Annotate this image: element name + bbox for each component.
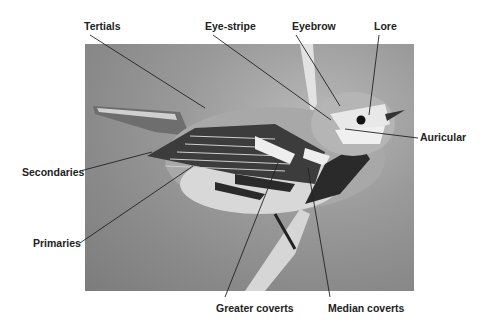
leader-line-tertials [90,35,205,108]
label-eyebrow: Eyebrow [292,20,336,32]
leader-line-eyebrow [296,35,340,106]
leader-line-secondaries [80,152,152,171]
leader-line-greater-coverts [225,163,278,297]
label-primaries: Primaries [33,237,81,249]
leader-line-eye-stripe [213,35,331,120]
leader-line-primaries [80,166,193,243]
label-median-coverts: Median coverts [328,302,404,314]
label-lore: Lore [374,20,397,32]
label-eye-stripe: Eye-stripe [205,20,256,32]
leader-line-lore [369,35,379,115]
leader-line-auricular [345,129,418,138]
label-auricular: Auricular [420,131,466,143]
label-tertials: Tertials [84,20,121,32]
label-secondaries: Secondaries [22,166,84,178]
label-greater-coverts: Greater coverts [216,302,294,314]
leader-line-median-coverts [308,168,330,297]
